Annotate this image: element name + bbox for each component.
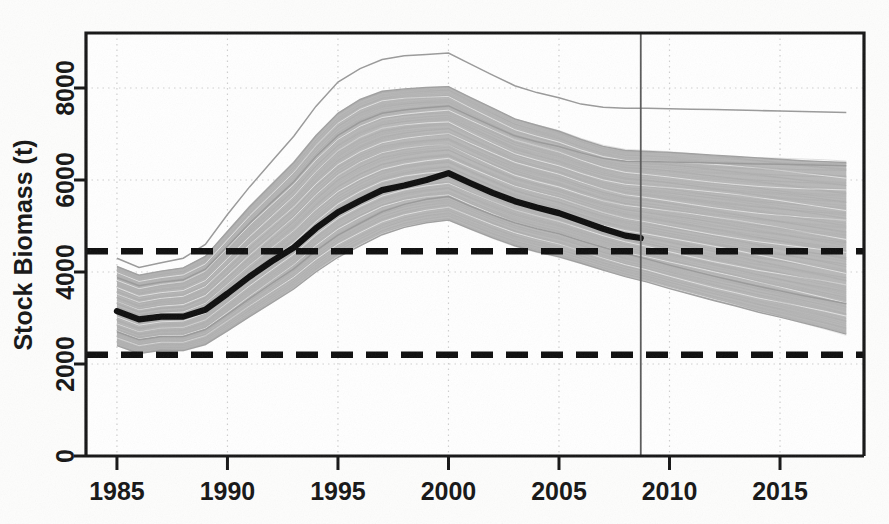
x-tick-label: 1990 [200, 477, 256, 505]
x-tick-layer [117, 456, 780, 470]
x-tick-label: 1995 [310, 477, 366, 505]
biomass-projection-figure: 02000400060008000 1985199019952000200520… [0, 0, 889, 524]
x-tick-label: 2005 [531, 477, 587, 505]
y-tick-labels: 02000400060008000 [51, 60, 79, 463]
x-tick-label: 1985 [89, 477, 145, 505]
x-tick-label: 2015 [752, 477, 808, 505]
y-tick-label: 8000 [51, 60, 79, 116]
x-tick-labels: 1985199019952000200520102015 [89, 477, 808, 505]
y-axis-title: Stock Biomass (t) [9, 139, 37, 350]
y-tick-label: 2000 [51, 336, 79, 392]
y-tick-label: 6000 [51, 152, 79, 208]
y-tick-label: 0 [51, 449, 79, 463]
chart-canvas: 02000400060008000 1985199019952000200520… [0, 0, 889, 524]
x-tick-label: 2000 [421, 477, 477, 505]
y-tick-label: 4000 [51, 244, 79, 300]
x-tick-label: 2010 [642, 477, 698, 505]
